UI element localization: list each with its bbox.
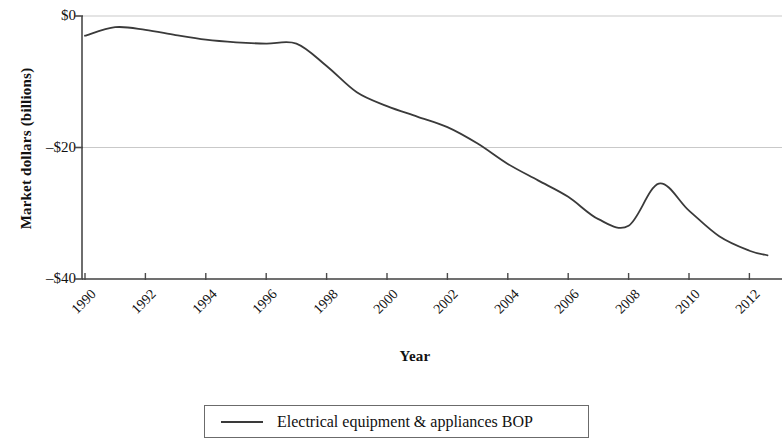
x-axis-title: Year [330, 348, 500, 365]
data-series-line [85, 27, 768, 255]
legend-label: Electrical equipment & appliances BOP [277, 413, 533, 431]
legend-line-swatch-icon [221, 421, 263, 423]
legend: Electrical equipment & appliances BOP [204, 405, 589, 438]
line-chart: Market dollars (billions) $0–$20–$40 Yea… [0, 0, 782, 438]
gridlines [82, 16, 782, 279]
data-series-group [85, 27, 768, 255]
plot-area [0, 0, 782, 300]
